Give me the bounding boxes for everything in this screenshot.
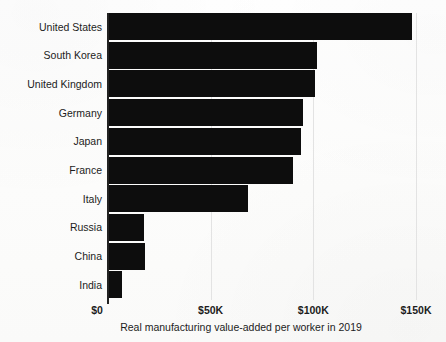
plot-area xyxy=(108,13,416,300)
bar-germany xyxy=(108,99,303,126)
y-axis-baseline xyxy=(107,13,109,304)
category-label-france: France xyxy=(2,164,102,176)
category-label-russia: Russia xyxy=(2,221,102,233)
category-label-india: India xyxy=(2,279,102,291)
tick-label-150K: $150K xyxy=(401,303,432,317)
bar-france xyxy=(108,157,293,184)
bar-south-korea xyxy=(108,42,317,69)
gridline-150K xyxy=(416,13,417,300)
category-axis-labels: United StatesSouth KoreaUnited KingdomGe… xyxy=(0,13,102,300)
category-label-china: China xyxy=(2,250,102,262)
bar-china xyxy=(108,243,145,270)
x-axis-title-text: Real manufacturing value-added per worke… xyxy=(84,321,362,334)
category-label-united-kingdom: United Kingdom xyxy=(2,78,102,90)
bar-italy xyxy=(108,185,248,212)
x-axis-title: Real manufacturing value-added per worke… xyxy=(0,321,446,334)
bar-united-states xyxy=(108,13,412,40)
category-label-south-korea: South Korea xyxy=(2,49,102,61)
bar-japan xyxy=(108,128,301,155)
bar-india xyxy=(108,271,122,298)
bar-chart-figure: United StatesSouth KoreaUnited KingdomGe… xyxy=(0,0,446,342)
tick-label-50K: $50K xyxy=(198,303,223,317)
category-label-germany: Germany xyxy=(2,107,102,119)
bar-russia xyxy=(108,214,144,241)
category-label-japan: Japan xyxy=(2,135,102,147)
category-label-italy: Italy xyxy=(2,193,102,205)
value-axis-tick-labels: $0$50K$100K$150K xyxy=(0,303,446,319)
category-label-united-states: United States xyxy=(2,21,102,33)
bar-united-kingdom xyxy=(108,70,315,97)
tick-label-100K: $100K xyxy=(298,303,329,317)
tick-label-0: $0 xyxy=(91,303,103,317)
